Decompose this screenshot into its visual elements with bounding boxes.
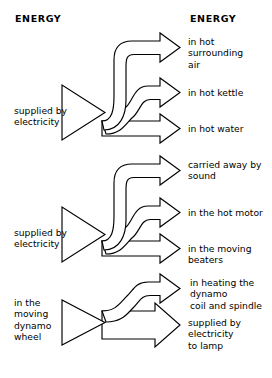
input-label-mixer: supplied by electricity — [14, 227, 74, 250]
flow-group-mixer — [62, 156, 180, 263]
flow-group-kettle — [62, 33, 180, 143]
output-label-supplied-to-lamp: supplied by electricity to lamp — [188, 317, 272, 351]
output-label-hot-surrounding-air: in hot surrounding air — [188, 36, 272, 70]
output-label-hot-kettle: in hot kettle — [188, 87, 272, 98]
output-label-carried-away-by-sound: carried away by sound — [188, 159, 272, 182]
flow-group-dynamo — [62, 274, 180, 347]
output-label-hot-water: in hot water — [188, 123, 272, 134]
energy-flow-diagram: ENERGY ENERGY — [0, 0, 272, 378]
output-label-heating-dynamo-coil-spindle: in heating the dynamo coil and spindle — [190, 277, 272, 311]
input-label-kettle: supplied by electricity — [14, 105, 74, 128]
output-label-moving-beaters: in the moving beaters — [188, 243, 272, 266]
flow-band-hot-surrounding-air — [102, 33, 180, 130]
output-label-hot-motor: in the hot motor — [188, 207, 272, 218]
input-label-dynamo: in the moving dynamo wheel — [14, 297, 74, 343]
flow-band-carried-away-by-sound — [102, 156, 180, 250]
